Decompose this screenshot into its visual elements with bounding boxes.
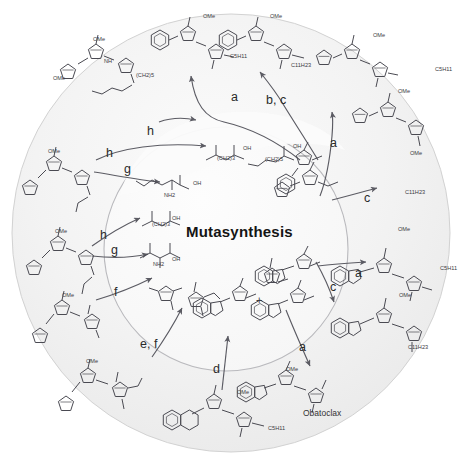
annotation-oh-5: OH: [172, 256, 180, 262]
annotation-oh-3: OH: [193, 180, 201, 186]
step-label-h-upperleft: h: [106, 146, 113, 160]
annotation-c5h11d: C5H11: [268, 425, 285, 431]
annotation-ome-4: OMe: [398, 88, 410, 94]
step-label-g-upperleft: g: [124, 162, 131, 176]
annotation-ome-13: OMe: [86, 358, 98, 364]
annotation-ome-1: OMe: [203, 13, 215, 19]
annotation-ome-15: OMe: [286, 366, 298, 372]
step-label-c-right: c: [364, 191, 370, 205]
annotation-c11h23b: C11H23: [405, 189, 425, 195]
annotation-ome-2: OMe: [270, 13, 282, 19]
step-label-c-right2: c: [330, 280, 336, 294]
step-label-a-bottomright: a: [299, 340, 306, 354]
annotation-ch23-1: (CH2)3: [217, 155, 235, 161]
step-label-f-left: f: [114, 285, 117, 299]
step-label-ef-lowleft: e, f: [140, 337, 157, 351]
annotation-nh2-1: NH2: [164, 192, 175, 198]
annotation-ome-10: OMe: [398, 226, 410, 232]
step-label-h-topleft: h: [147, 124, 154, 138]
annotation-ome-5: OMe: [93, 36, 105, 42]
step-label-a-top: a: [231, 90, 238, 104]
step-label-a-right: a: [355, 266, 362, 280]
annotation-ch23-2: (CH2)5: [265, 156, 283, 162]
annotation-ome-7: OMe: [48, 148, 60, 154]
mutasynthesis-figure: Mutasynthesis a b, c a c h h g h g f e, …: [0, 0, 463, 467]
annotation-ome-3: OMe: [373, 32, 385, 38]
annotation-ome-8: OMe: [410, 150, 422, 156]
annotation-ome-14: OMe: [237, 389, 249, 395]
step-label-h-midleft: h: [100, 228, 107, 242]
annotation-ome-12: OMe: [399, 292, 411, 298]
annotation-oh-4: OH: [172, 215, 180, 221]
annotation-oh-2: OH: [293, 143, 301, 149]
annotation-ome-9: OMe: [55, 228, 67, 234]
annotation-ome-11: OMe: [62, 292, 74, 298]
annotation-nh-1: NH: [104, 58, 112, 64]
annotation-c5h11: C5H11: [230, 53, 247, 59]
annotation-c11h23c: C11H23: [408, 344, 428, 350]
step-label-bc-top: b, c: [266, 93, 286, 107]
annotation-c5h11b: C5H11: [435, 66, 452, 72]
step-label-g-midleft: g: [111, 243, 118, 257]
step-label-a-topright: a: [330, 136, 337, 150]
compound-label-obatoclax: Obatoclax: [303, 408, 341, 418]
annotation-ch25-1: (CH2)5: [136, 72, 154, 78]
annotation-c11h23a: C11H23: [291, 62, 311, 68]
annotation-plus: +: [256, 294, 262, 306]
annotation-ome-6: OMe: [53, 75, 65, 81]
center-label: Mutasynthesis: [186, 223, 293, 240]
step-label-d-bottom: d: [213, 362, 220, 376]
annotation-oh-1: OH: [243, 145, 251, 151]
annotation-c5h11c: C5H11: [440, 265, 457, 271]
annotation-nh2-2: NH2: [153, 261, 164, 267]
annotation-ch23-3: (CH2)3: [152, 221, 170, 227]
